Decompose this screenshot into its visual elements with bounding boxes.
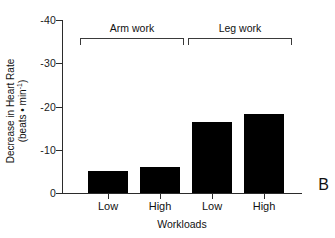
bar-arm-low	[88, 171, 128, 194]
x-tick-label-arm-high: High	[130, 200, 190, 213]
y-tick-label-0: 0	[30, 188, 56, 198]
x-tick-mark-3	[212, 194, 213, 199]
y-tick-label-wrap-40: -40	[22, 15, 56, 25]
chart-figure: Decrease in Heart Rate (beats • min-1) -…	[0, 0, 335, 238]
y-tick-mark-30	[56, 63, 62, 64]
y-tick-label-40: -40	[30, 15, 56, 25]
y-tick-label-10: -10	[30, 145, 56, 155]
group-bracket-arm-work	[80, 38, 184, 45]
bar-arm-high	[140, 167, 180, 194]
bar-leg-low	[192, 122, 232, 194]
group-label-arm-work: Arm work	[80, 22, 184, 34]
y-axis-line	[62, 20, 63, 194]
y-axis-title-units-suffix: )	[17, 80, 28, 83]
y-axis-title-units-prefix: (beats • min	[17, 89, 28, 142]
y-tick-label-wrap-0: 0	[22, 188, 56, 198]
x-axis-title: Workloads	[62, 218, 302, 230]
x-tick-label-leg-high: High	[234, 200, 294, 213]
y-tick-label-30: -30	[30, 58, 56, 68]
x-tick-mark-2	[160, 194, 161, 199]
x-tick-mark-4	[264, 194, 265, 199]
y-tick-label-wrap-30: -30	[22, 58, 56, 68]
x-tick-mark-1	[108, 194, 109, 199]
y-tick-mark-40	[56, 20, 62, 21]
x-tick-label-arm-low: Low	[78, 200, 138, 213]
group-bracket-leg-work	[188, 38, 292, 45]
y-axis-title-units-exponent: -1	[16, 83, 23, 89]
group-label-leg-work: Leg work	[188, 22, 292, 34]
y-axis-title-line1: Decrease in Heart Rate	[5, 21, 17, 201]
x-tick-label-leg-low: Low	[182, 200, 242, 213]
x-axis-line	[62, 193, 302, 194]
y-tick-mark-10	[56, 150, 62, 151]
y-tick-label-wrap-10: -10	[22, 145, 56, 155]
y-tick-label-wrap-20: -20	[22, 102, 56, 112]
y-tick-mark-20	[56, 107, 62, 108]
bar-leg-high	[244, 114, 284, 194]
panel-label: B	[318, 176, 329, 194]
y-tick-label-20: -20	[30, 102, 56, 112]
